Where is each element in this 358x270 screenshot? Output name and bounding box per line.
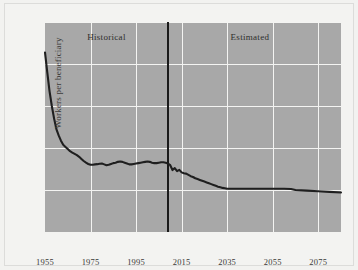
x-axis-tick-label: 2035: [205, 258, 249, 267]
annotation-historical: Historical: [66, 32, 146, 42]
x-axis-tick-label: 1995: [114, 258, 158, 267]
x-axis-tick-label: 2055: [251, 258, 295, 267]
plot-area: Historical Estimated Workers per benefic…: [45, 22, 341, 232]
annotation-estimated: Estimated: [210, 32, 290, 42]
x-axis-tick-label: 2015: [160, 258, 204, 267]
series-line-chart: [45, 22, 341, 232]
x-axis-tick-label: 1955: [23, 258, 67, 267]
x-axis-tick-label: 1975: [69, 258, 113, 267]
series-path-workers-per-beneficiary: [45, 52, 341, 192]
x-axis-tick-label: 2075: [296, 258, 340, 267]
chart-figure: Historical Estimated Workers per benefic…: [0, 0, 358, 270]
y-axis-label: Workers per beneficiary: [53, 8, 63, 158]
